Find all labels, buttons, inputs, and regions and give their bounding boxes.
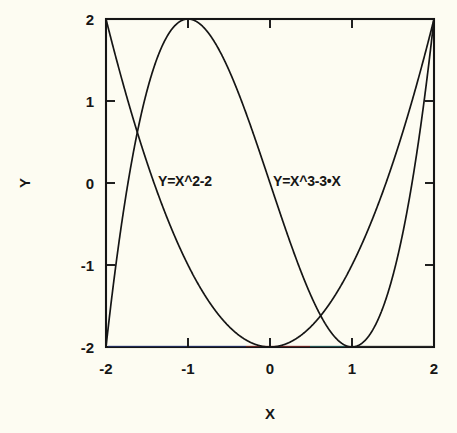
x-tick-label-1: 1 — [348, 360, 356, 377]
y-tick-labels: 2 1 0 -1 -2 — [81, 11, 94, 356]
y-axis-ticks-right — [425, 101, 434, 265]
x-axis-ticks — [188, 338, 352, 347]
x-tick-label-minus2: -2 — [99, 360, 112, 377]
y-axis-title: Y — [16, 178, 33, 188]
x-tick-label-minus1: -1 — [181, 360, 194, 377]
x-tick-labels: -2 -1 0 1 2 — [99, 360, 438, 377]
y-tick-label-0: 0 — [86, 175, 94, 192]
x-axis-ticks-top — [188, 19, 352, 28]
curve-label-cubic: Y=X^3-3•X — [273, 173, 342, 189]
curves-group — [106, 19, 434, 347]
y-axis-ticks — [106, 101, 115, 265]
x-tick-label-2: 2 — [430, 360, 438, 377]
y-tick-label-minus2: -2 — [81, 339, 94, 356]
chart-figure: 2 1 0 -1 -2 -2 -1 0 1 2 Y X Y=X^2-2 Y=X^… — [0, 0, 457, 433]
y-tick-label-1: 1 — [86, 93, 94, 110]
function-plot-svg: 2 1 0 -1 -2 -2 -1 0 1 2 Y X Y=X^2-2 Y=X^… — [0, 0, 457, 433]
y-tick-label-2: 2 — [86, 11, 94, 28]
curve-cubic — [106, 19, 434, 347]
x-axis-title: X — [265, 405, 275, 422]
curve-label-parabola: Y=X^2-2 — [158, 173, 212, 189]
x-tick-label-0: 0 — [266, 360, 274, 377]
y-tick-label-minus1: -1 — [81, 257, 94, 274]
